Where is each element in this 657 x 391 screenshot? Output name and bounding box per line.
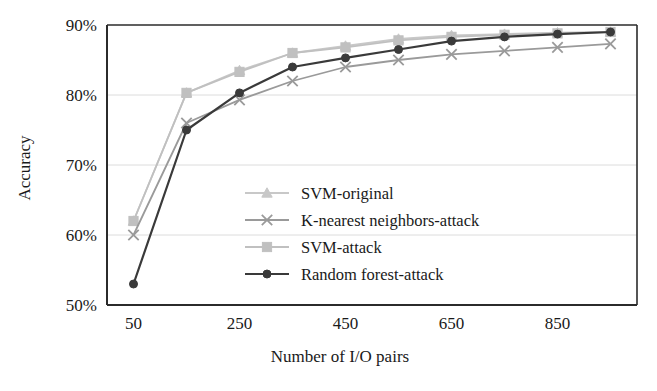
data-point-circle	[501, 33, 509, 41]
data-point-circle	[130, 280, 138, 288]
y-tick-label: 80%	[66, 86, 97, 105]
x-axis-title: Number of I/O pairs	[271, 347, 409, 366]
data-point-circle	[395, 46, 403, 54]
data-point-square	[394, 36, 403, 45]
legend-item-label: K-nearest neighbors-attack	[301, 211, 480, 230]
data-point-circle	[289, 63, 297, 71]
data-point-square	[341, 43, 350, 52]
accuracy-vs-io-pairs-chart: 50%60%70%80%90% 50250450650850 Number of…	[0, 0, 657, 391]
x-tick-label: 250	[227, 314, 253, 333]
legend-item-label: SVM-original	[301, 184, 394, 203]
data-point-circle	[607, 28, 615, 36]
data-point-square	[288, 48, 297, 57]
data-point-circle	[448, 37, 456, 45]
x-tick-label: 850	[545, 314, 571, 333]
legend-item-label: SVM-attack	[301, 238, 382, 257]
data-point-square	[235, 67, 244, 76]
legend-item-label: Random forest-attack	[301, 265, 444, 284]
y-axis-title: Accuracy	[15, 135, 34, 201]
data-point-circle	[342, 54, 350, 62]
y-tick-label: 70%	[66, 156, 97, 175]
data-point-circle	[263, 270, 271, 278]
y-tick-label: 50%	[66, 296, 97, 315]
x-tick-label: 650	[439, 314, 465, 333]
data-point-square	[182, 88, 191, 97]
chart-canvas: 50%60%70%80%90% 50250450650850 Number of…	[0, 0, 657, 391]
x-tick-label: 450	[333, 314, 359, 333]
data-point-square	[129, 216, 138, 225]
data-point-circle	[183, 126, 191, 134]
data-point-circle	[554, 30, 562, 38]
data-point-square	[262, 242, 271, 251]
data-point-circle	[236, 89, 244, 97]
y-tick-label: 60%	[66, 226, 97, 245]
x-tick-label: 50	[125, 314, 142, 333]
y-tick-label: 90%	[66, 16, 97, 35]
